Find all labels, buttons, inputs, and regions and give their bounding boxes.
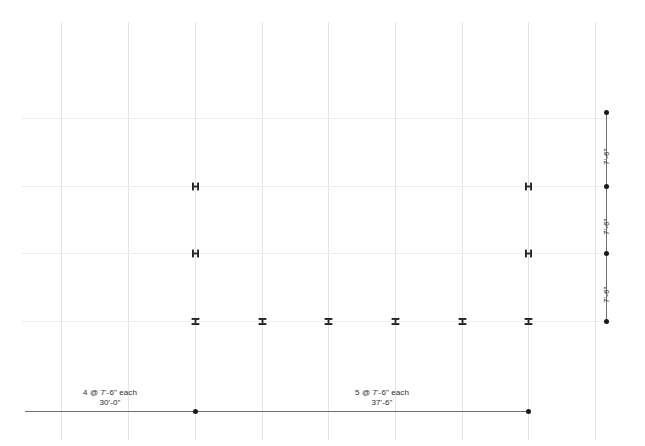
dim-bay-left: 4 @ 7'-6" each30'-0" [40,388,180,408]
gridline-vertical-9 [595,22,596,440]
dim-bay-right: 5 @ 7'-6" each37'-6" [312,388,452,408]
dim-bay-right-count-label: 5 @ 7'-6" each [312,388,452,398]
dimension-endpoint-horizontal-2[interactable] [526,409,531,414]
gridline-vertical-2 [128,22,129,440]
column-section-icon[interactable] [524,249,533,258]
dim-story-middle-label: 7'-6" [602,219,612,235]
gridline-vertical-7 [462,22,463,440]
beam-section-icon[interactable] [258,317,267,326]
gridline-vertical-4 [262,22,263,440]
beam-section-icon[interactable] [391,317,400,326]
gridline-vertical-5 [328,22,329,440]
dim-story-bottom-label: 7'-6" [602,287,612,303]
dimension-endpoint-vertical-1[interactable] [604,110,609,115]
beam-section-icon[interactable] [324,317,333,326]
dimension-endpoint-horizontal-1[interactable] [193,409,198,414]
gridline-vertical-8 [528,22,529,440]
dimension-endpoint-vertical-4[interactable] [604,319,609,324]
beam-section-icon[interactable] [524,317,533,326]
dimension-endpoint-vertical-3[interactable] [604,251,609,256]
column-section-icon[interactable] [191,182,200,191]
column-section-icon[interactable] [191,249,200,258]
beam-section-icon[interactable] [458,317,467,326]
dimension-endpoint-vertical-2[interactable] [604,184,609,189]
dim-bay-right-total-label: 37'-6" [312,398,452,408]
dimension-line-horizontal [25,411,528,412]
gridline-horizontal-1 [22,118,612,119]
drawing-canvas[interactable]: 4 @ 7'-6" each30'-0"5 @ 7'-6" each37'-6"… [0,0,645,446]
beam-section-icon[interactable] [191,317,200,326]
gridline-vertical-3 [195,22,196,440]
column-section-icon[interactable] [524,182,533,191]
gridline-vertical-6 [395,22,396,440]
dim-bay-left-count-label: 4 @ 7'-6" each [40,388,180,398]
gridline-vertical-1 [61,22,62,440]
dim-story-top-label: 7'-6" [602,149,612,165]
dim-bay-left-total-label: 30'-0" [40,398,180,408]
